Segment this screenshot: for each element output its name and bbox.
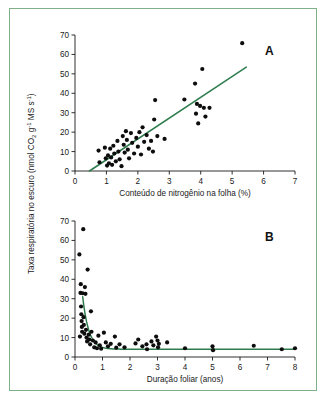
y-tick-label: 30 [60,295,70,304]
axis-spines [75,221,295,357]
y-tick-label: 50 [60,70,70,79]
data-point [293,346,297,350]
data-point [78,335,82,339]
data-point [252,344,256,348]
data-point [139,152,143,156]
data-point [84,328,88,332]
data-point [145,133,149,137]
data-point [165,340,169,344]
data-point [207,106,211,110]
data-point [89,309,93,313]
data-point [119,164,123,168]
data-point [113,335,117,339]
data-point [196,121,200,125]
x-tick-label: 3 [155,363,160,372]
data-point [77,252,81,256]
data-point [122,345,126,349]
x-tick-label: 1 [100,363,105,372]
data-point [182,97,186,101]
data-point [183,346,187,350]
panel-b: 010203040506070012345678Duração foliar (… [10,199,318,390]
data-point [104,340,108,344]
data-point [210,344,214,348]
data-point [140,344,144,348]
data-point [81,227,85,231]
y-tick-label: 20 [60,314,70,323]
x-tick-label: 2 [128,363,133,372]
data-point [198,104,202,108]
data-point [83,285,87,289]
data-point [202,106,206,110]
data-point [121,134,125,138]
x-tick-label: 5 [230,177,235,186]
data-point [152,117,156,121]
x-tick-label: 8 [293,363,298,372]
data-point [109,342,113,346]
x-tick-label: 7 [293,177,298,186]
data-point [137,130,141,134]
data-point [103,146,107,150]
data-point [114,346,118,350]
figure-frame: 01020304050607001234567Conteúdo de nitro… [9,8,317,391]
data-point [151,149,155,153]
panel-a: 01020304050607001234567Conteúdo de nitro… [10,11,318,201]
data-point [115,139,119,143]
data-point [80,319,84,323]
data-point [193,81,197,85]
y-tick-label: 40 [60,89,70,98]
data-point [211,348,215,352]
data-point [133,341,137,345]
data-point [154,335,158,339]
x-tick-label: 3 [167,177,172,186]
y-tick-label: 30 [60,109,70,118]
data-point [162,137,166,141]
panel-a-plot: 01020304050607001234567Conteúdo de nitro… [10,11,318,201]
data-point [110,163,114,167]
figure-root: 01020304050607001234567Conteúdo de nitro… [0,0,326,407]
panel-letter: A [265,44,274,58]
data-point [129,131,133,135]
data-point [79,304,83,308]
data-point [99,347,103,351]
trend-line [83,297,295,350]
x-tick-label: 0 [73,177,78,186]
data-point [123,150,127,154]
data-point [112,151,116,155]
data-point [109,155,113,159]
data-point [97,160,101,164]
x-tick-label: 1 [104,177,109,186]
x-tick-label: 2 [136,177,141,186]
data-point [86,267,90,271]
y-tick-label: 10 [60,148,70,157]
data-point [89,330,93,334]
x-tick-label: 4 [183,363,188,372]
y-tick-label: 70 [60,217,70,226]
data-point [134,136,138,140]
panel-letter: B [265,230,274,244]
y-tick-label: 40 [60,275,70,284]
data-point [149,139,153,143]
y-tick-label: 60 [60,50,70,59]
x-tick-label: 6 [238,363,243,372]
data-point [149,339,153,343]
x-tick-label: 6 [261,177,266,186]
data-point [280,347,284,351]
data-point [111,144,115,148]
y-tick-label: 50 [60,256,70,265]
data-point [147,147,151,151]
data-point [117,342,121,346]
y-tick-label: 20 [60,128,70,137]
data-point [151,343,155,347]
x-tick-label: 7 [265,363,270,372]
panel-b-plot: 010203040506070012345678Duração foliar (… [10,199,318,390]
data-point [142,140,146,144]
data-point [130,141,134,145]
data-point [96,334,100,338]
data-point [102,331,106,335]
data-point [122,143,126,147]
data-point [83,292,87,296]
data-point [116,149,120,153]
data-point [127,156,131,160]
data-point [82,332,86,336]
x-tick-label: 4 [198,177,203,186]
